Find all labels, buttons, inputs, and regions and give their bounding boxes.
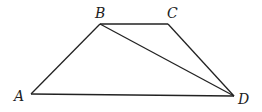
segment-cd: [168, 24, 234, 96]
segment-ab: [31, 24, 100, 94]
segment-bd: [100, 24, 234, 96]
vertex-label-b: B: [94, 5, 105, 21]
segment-ad: [31, 94, 234, 96]
trapezoid-diagram: A B C D: [0, 0, 262, 112]
vertex-label-c: C: [167, 5, 178, 21]
vertex-label-a: A: [12, 88, 24, 104]
vertex-label-d: D: [237, 91, 249, 107]
